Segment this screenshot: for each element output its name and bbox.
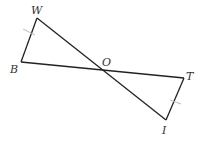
segment-WB [21,18,37,62]
tick-mark-TI [170,100,181,104]
label-T: T [186,70,195,83]
geometry-diagram: W B O T I [0,0,205,144]
segment-WI [37,18,166,120]
label-B: B [9,63,18,76]
segment-TI [166,78,184,120]
label-O: O [102,56,111,69]
label-W: W [31,4,44,17]
label-I: I [161,124,167,137]
